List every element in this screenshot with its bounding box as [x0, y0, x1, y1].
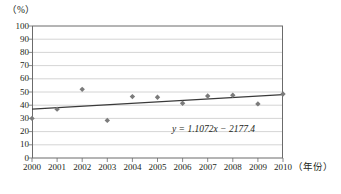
y-tick-label-40: 40	[3, 101, 29, 110]
y-tick-label-20: 20	[3, 127, 29, 136]
data-series-layer	[32, 26, 283, 158]
y-tick-label-70: 70	[3, 61, 29, 70]
y-tick-label-50: 50	[3, 88, 29, 97]
data-point-2000	[29, 116, 34, 121]
data-point-2005	[155, 95, 160, 100]
data-point-2003	[105, 118, 110, 123]
y-tick-label-10: 10	[3, 140, 29, 149]
y-axis-unit-label: （%）	[7, 6, 35, 16]
data-point-2007	[205, 93, 210, 98]
data-point-2009	[255, 101, 260, 106]
data-point-2004	[130, 94, 135, 99]
data-point-2006	[180, 101, 185, 106]
y-tick-label-30: 30	[3, 114, 29, 123]
chart-container: （%） （年份） 1009080706050403020100 20002001…	[0, 0, 341, 194]
y-tick-label-80: 80	[3, 48, 29, 57]
data-point-2002	[80, 87, 85, 92]
y-tick-label-60: 60	[3, 74, 29, 83]
regression-equation-label: y = 1.1072x − 2177.4	[172, 125, 255, 135]
x-tick-label-2010: 2010	[268, 163, 298, 172]
y-tick-label-90: 90	[3, 35, 29, 44]
x-axis-unit-label: （年份）	[293, 163, 333, 173]
y-tick-label-100: 100	[3, 22, 29, 31]
data-point-2010	[280, 91, 285, 96]
plot-area	[32, 26, 283, 158]
y-axis-tick-labels: 1009080706050403020100	[0, 26, 29, 158]
x-axis-tick-labels: 2000200120022003200420052006200720082009…	[32, 163, 283, 177]
